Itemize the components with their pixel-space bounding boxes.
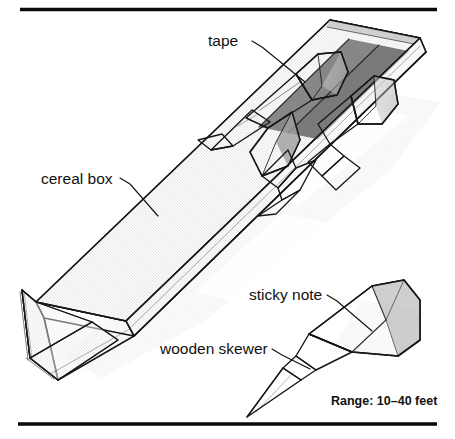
leader-wooden-skewer bbox=[272, 349, 310, 369]
label-sticky-note: sticky note bbox=[249, 286, 322, 303]
label-tape: tape bbox=[208, 32, 238, 49]
illustration-figure: tape cereal box sticky note wooden skewe… bbox=[0, 0, 455, 439]
range-annotation: Range: 10–40 feet bbox=[331, 394, 438, 408]
label-wooden-skewer: wooden skewer bbox=[159, 340, 268, 357]
label-cereal-box: cereal box bbox=[41, 170, 113, 187]
